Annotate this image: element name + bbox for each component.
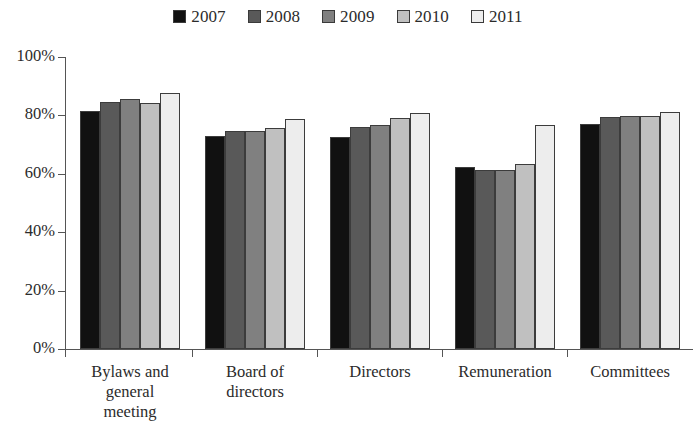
- x-axis-tick: [317, 350, 318, 357]
- y-axis-tick: [58, 349, 65, 350]
- bar-2010-1: [265, 128, 285, 349]
- bar-2011-1: [285, 119, 305, 349]
- bar-2009-3: [495, 170, 515, 349]
- y-axis-label: 0%: [3, 340, 55, 357]
- bar-2008-4: [600, 117, 620, 349]
- x-axis-line: [65, 349, 693, 350]
- bar-2007-4: [580, 124, 600, 349]
- y-axis-label: 80%: [3, 106, 55, 123]
- bar-2008-2: [350, 127, 370, 349]
- y-axis-tick: [58, 232, 65, 233]
- x-axis-tick: [567, 350, 568, 357]
- bar-2007-0: [80, 111, 100, 349]
- bar-2011-4: [660, 112, 680, 349]
- category-label-line: Board of: [185, 362, 325, 382]
- y-axis-tick: [58, 115, 65, 116]
- bar-2010-4: [640, 116, 660, 349]
- bar-2007-3: [455, 167, 475, 349]
- category-label-line: general: [60, 382, 200, 402]
- bar-2008-0: [100, 102, 120, 349]
- bar-2007-2: [330, 137, 350, 349]
- category-label-line: Directors: [310, 362, 450, 382]
- bar-2010-0: [140, 103, 160, 349]
- y-axis-tick: [58, 57, 65, 58]
- bar-2009-0: [120, 99, 140, 349]
- x-axis-category-label: Committees: [560, 362, 696, 382]
- category-label-line: meeting: [60, 402, 200, 422]
- bar-2008-1: [225, 131, 245, 349]
- x-axis-category-label: Board ofdirectors: [185, 362, 325, 402]
- x-axis-category-label: Directors: [310, 362, 450, 382]
- bar-2009-1: [245, 131, 265, 349]
- x-axis-category-label: Bylaws andgeneralmeeting: [60, 362, 200, 422]
- y-axis-label: 40%: [3, 223, 55, 240]
- category-label-line: Committees: [560, 362, 696, 382]
- x-axis-tick: [192, 350, 193, 357]
- bar-2011-2: [410, 113, 430, 349]
- y-axis-label: 60%: [3, 165, 55, 182]
- plot-area: 100%80%60%40%20%0%Bylaws andgeneralmeeti…: [0, 0, 696, 436]
- y-axis-tick: [58, 291, 65, 292]
- bar-2009-2: [370, 125, 390, 349]
- y-axis-label: 20%: [3, 282, 55, 299]
- category-label-line: Bylaws and: [60, 362, 200, 382]
- x-axis-tick: [442, 350, 443, 357]
- bar-2010-2: [390, 118, 410, 349]
- category-label-line: directors: [185, 382, 325, 402]
- y-axis-label: 100%: [3, 48, 55, 65]
- bar-chart: 20072008200920102011 100%80%60%40%20%0%B…: [0, 0, 696, 436]
- x-axis-category-label: Remuneration: [435, 362, 575, 382]
- category-label-line: Remuneration: [435, 362, 575, 382]
- bar-2010-3: [515, 164, 535, 349]
- bar-2008-3: [475, 170, 495, 349]
- y-axis-tick: [58, 174, 65, 175]
- x-axis-origin-tick: [65, 350, 66, 357]
- y-axis-line: [65, 57, 66, 350]
- bar-2011-0: [160, 93, 180, 349]
- bar-2009-4: [620, 116, 640, 349]
- bar-2011-3: [535, 125, 555, 349]
- bar-2007-1: [205, 136, 225, 349]
